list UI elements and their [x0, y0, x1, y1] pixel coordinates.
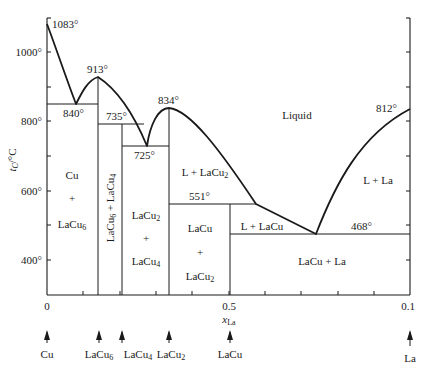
liquidus-curve — [47, 24, 410, 234]
marker-lacu: LaCu — [218, 330, 243, 360]
label-840: 840° — [63, 107, 84, 119]
region-cu-plus: + — [69, 192, 75, 204]
label-834: 834° — [158, 94, 179, 106]
label-1083: 1083° — [52, 18, 78, 30]
x-tick-0.5: 0.5 — [222, 300, 236, 312]
svg-text:LaCu: LaCu — [218, 348, 243, 360]
svg-text:tC/°C: tC/°C — [6, 148, 20, 171]
region-lacu2-lower: LaCu2 — [186, 270, 214, 284]
arrow-up-icon — [166, 330, 172, 340]
region-liquid: Liquid — [282, 109, 312, 121]
region-lacu4-lower: LaCu4 — [132, 255, 160, 269]
region-l-lacu: L + LaCu — [241, 220, 284, 232]
y-tick-400: 400° — [21, 254, 42, 266]
label-812: 812° — [376, 102, 397, 114]
y-axis-label: tC/°C — [6, 148, 20, 171]
arrow-up-icon — [96, 330, 102, 340]
arrow-up-icon — [227, 330, 233, 340]
x-axis-label: xLa — [221, 313, 236, 327]
arrow-up-icon — [119, 330, 125, 340]
marker-lacu2: LaCu2 — [157, 330, 185, 362]
label-468: 468° — [351, 220, 372, 232]
region-l-la: L + La — [363, 174, 393, 186]
label-551: 551° — [189, 190, 210, 202]
label-735: 735° — [106, 110, 127, 122]
label-913: 913° — [87, 63, 108, 75]
region-lacu-la: LaCu + La — [298, 255, 346, 267]
marker-lacu6: LaCu6 — [85, 330, 113, 362]
region-lacu2-upper: LaCu2 — [132, 209, 160, 223]
x-tick-0: 0 — [44, 300, 50, 312]
region-lacu2-lacu4-plus: + — [143, 232, 149, 244]
label-725: 725° — [134, 149, 155, 161]
svg-text:LaCu4: LaCu4 — [124, 348, 152, 362]
region-lacu6-lacu4: LaCu6 + LaCu4 — [104, 174, 118, 243]
x-tick-1: 0.1 — [401, 300, 415, 312]
phase-diagram: 1000° 800° 600° 400° tC/°C 0 0.5 0.1 xLa — [0, 0, 425, 370]
region-cu-label: Cu — [66, 169, 79, 181]
composition-markers: Cu LaCu6 LaCu4 LaCu2 LaCu La — [41, 330, 416, 364]
region-lacu-upper: LaCu — [188, 222, 213, 234]
x-tick-labels: 0 0.5 0.1 — [44, 300, 415, 312]
region-l-lacu2: L + LaCu2 — [182, 166, 228, 180]
y-ticks-left — [47, 52, 51, 260]
marker-cu: Cu — [41, 330, 54, 360]
svg-text:LaCu6: LaCu6 — [85, 348, 113, 362]
marker-lacu4: LaCu4 — [119, 330, 152, 362]
region-lacu6-label: LaCu6 — [58, 218, 86, 232]
y-ticks-right — [406, 52, 410, 260]
svg-text:Cu: Cu — [41, 348, 54, 360]
arrow-up-icon — [44, 330, 50, 340]
marker-la: La — [404, 330, 416, 364]
x-ticks — [83, 291, 374, 295]
region-labels: Liquid L + LaCu2 L + LaCu L + La Cu + La… — [58, 109, 393, 284]
phase-boundaries — [47, 77, 410, 295]
y-tick-1000: 1000° — [16, 46, 42, 58]
region-lacu-lacu2-plus: + — [197, 246, 203, 258]
svg-text:La: La — [404, 352, 416, 364]
y-tick-labels: 1000° 800° 600° 400° — [16, 46, 42, 266]
y-tick-600: 600° — [21, 185, 42, 197]
y-tick-800: 800° — [21, 115, 42, 127]
svg-text:LaCu2: LaCu2 — [157, 348, 185, 362]
arrow-up-icon — [407, 330, 413, 340]
